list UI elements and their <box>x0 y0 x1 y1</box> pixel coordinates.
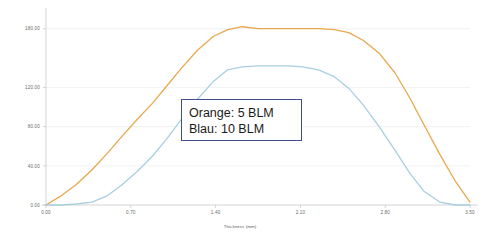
chart-container: 0.0040.0080.00120.00180.00 0.000.701.402… <box>0 0 484 241</box>
x-tick-label: 0.70 <box>126 210 136 215</box>
gridlines-group <box>46 29 470 166</box>
x-tick-label: 2.10 <box>296 210 306 215</box>
x-axis-title: Thickness (mm) <box>224 224 257 229</box>
y-tick-label: 120.00 <box>25 85 40 90</box>
y-tick-label: 80.00 <box>28 124 41 129</box>
x-tick-label: 3.50 <box>465 210 475 215</box>
x-tick-label: 0.00 <box>41 210 51 215</box>
legend-line-orange: Orange: 5 BLM <box>189 105 301 121</box>
x-tick-label: 1.40 <box>211 210 221 215</box>
legend-callout-text: Orange: 5 BLM Blau: 10 BLM <box>182 100 301 137</box>
y-tick-label: 180.00 <box>25 26 40 31</box>
legend-callout-box: Orange: 5 BLM Blau: 10 BLM <box>181 99 302 141</box>
y-tick-label: 0.00 <box>30 203 40 208</box>
legend-line-blau: Blau: 10 BLM <box>189 121 301 137</box>
x-axis-ticks: 0.000.701.402.102.803.50 <box>41 205 475 215</box>
x-tick-label: 2.80 <box>380 210 390 215</box>
y-axis-ticks: 0.0040.0080.00120.00180.00 <box>25 26 46 207</box>
y-tick-label: 40.00 <box>28 164 41 169</box>
